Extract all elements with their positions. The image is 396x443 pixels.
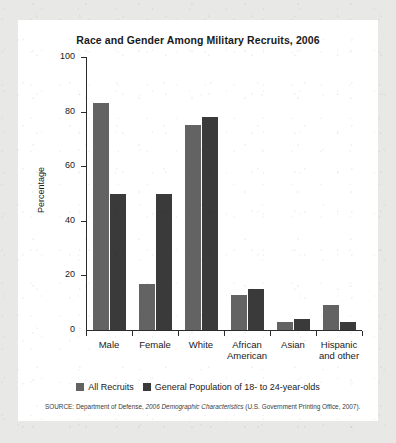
x-axis-category-label: Hispanicand other [310,339,368,361]
x-axis-tick-mark [316,331,317,336]
source-suffix: (U.S. Government Printing Office, 2007). [244,403,361,410]
bar-general-population-of-18-to-24-year-olds-hispanic-and-other [340,322,356,330]
y-axis-title: Percentage [36,145,46,235]
y-axis-tick-mark [81,112,86,113]
x-axis-tick-mark [224,331,225,336]
y-axis-tick-mark [81,275,86,276]
bar-general-population-of-18-to-24-year-olds-female [156,194,172,331]
figure-card: Race and Gender Among Military Recruits,… [18,20,378,421]
source-prefix: SOURCE: Department of Defense, [45,403,146,410]
legend-label: General Population of 18- to 24-year-old… [155,382,320,392]
source-note: SOURCE: Department of Defense, 2006 Demo… [45,402,363,411]
y-axis-tick-label: 0 [49,324,75,334]
legend-swatch [143,383,151,391]
bar-all-recruits-african-american [231,295,247,330]
y-axis-tick-mark [81,166,86,167]
bar-all-recruits-asian [277,322,293,330]
bar-general-population-of-18-to-24-year-olds-asian [294,319,310,330]
y-axis-tick-label: 40 [49,215,75,225]
bar-general-population-of-18-to-24-year-olds-white [202,117,218,330]
bar-general-population-of-18-to-24-year-olds-african-american [248,289,264,330]
bar-all-recruits-female [139,284,155,330]
legend-item: All Recruits [76,382,134,392]
legend-swatch [76,383,84,391]
y-axis-tick-mark [81,57,86,58]
y-axis-tick-mark [81,221,86,222]
x-axis-tick-mark [178,331,179,336]
y-axis-tick-label: 100 [49,51,75,61]
y-axis-line [86,57,87,331]
source-title: 2006 Demographic Characteristics [146,403,244,410]
chart-legend: All RecruitsGeneral Population of 18- to… [18,382,378,392]
x-axis-tick-mark [86,331,87,336]
x-axis-category-line: American [218,350,276,361]
legend-item: General Population of 18- to 24-year-old… [143,382,320,392]
bar-general-population-of-18-to-24-year-olds-male [110,194,126,331]
x-axis-category-line: and other [310,350,368,361]
x-axis-category-line: Hispanic [310,339,368,350]
bar-all-recruits-white [185,125,201,330]
bar-chart-plot: Percentage 020406080100MaleFemaleWhiteAf… [18,20,378,421]
legend-label: All Recruits [88,382,134,392]
bar-all-recruits-hispanic-and-other [323,305,339,330]
y-axis-tick-label: 80 [49,106,75,116]
y-axis-tick-label: 60 [49,160,75,170]
x-axis-tick-mark [270,331,271,336]
bar-all-recruits-male [93,103,109,330]
x-axis-tick-mark [132,331,133,336]
x-axis-tick-mark [362,331,363,336]
y-axis-tick-label: 20 [49,269,75,279]
